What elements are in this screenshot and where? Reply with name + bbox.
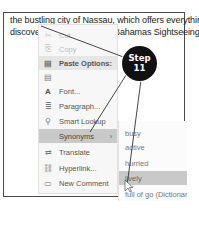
step-callout-badge: Step 11	[122, 46, 157, 81]
menu-item-translate[interactable]: ⇄ Translate	[39, 145, 117, 159]
synonym-hurried[interactable]: hurried	[119, 156, 187, 170]
menu-item-synonyms[interactable]: Synonyms ›	[39, 129, 117, 143]
menu-item-paste-keep-text[interactable]: ▤	[39, 70, 117, 84]
search-icon: ⚲	[42, 117, 54, 126]
synonym-lively[interactable]: lively	[119, 171, 187, 185]
menu-item-copy[interactable]: ⎘ Copy	[39, 42, 117, 56]
document-text-line-2-right: Bahamas Sightseeing	[114, 27, 199, 37]
font-icon: A	[42, 87, 54, 96]
translate-icon: ⇄	[42, 148, 54, 157]
menu-item-new-comment[interactable]: ▭ New Comment	[39, 176, 117, 190]
hyperlink-icon: ⛓	[42, 164, 54, 173]
synonyms-submenu: busy active hurried lively full of go (D…	[118, 121, 187, 201]
synonym-busy[interactable]: busy	[119, 126, 187, 140]
synonym-active[interactable]: active	[119, 140, 187, 154]
menu-header-paste-options: ▤ Paste Options:	[39, 56, 117, 70]
chevron-right-icon: ›	[110, 133, 112, 140]
menu-item-hyperlink[interactable]: ⛓ Hyperlink...	[39, 161, 117, 175]
menu-item-smart-lookup[interactable]: ⚲ Smart Lookup	[39, 114, 117, 128]
paragraph-icon: ≣	[42, 102, 54, 111]
menu-item-paragraph[interactable]: ≣ Paragraph...	[39, 99, 117, 113]
context-menu: ✂ Cut ⎘ Copy ▤ Paste Options: ▤ A Font..…	[38, 24, 118, 194]
synonym-full-of-go[interactable]: full of go (Dictionary)	[119, 187, 187, 201]
menu-item-font[interactable]: A Font...	[39, 84, 117, 98]
step-number: 11	[134, 64, 146, 74]
comment-icon: ▭	[42, 179, 54, 188]
scissors-icon: ✂	[42, 31, 54, 40]
copy-icon: ⎘	[42, 44, 54, 54]
paste-keep-text-icon: ▤	[42, 73, 54, 82]
menu-item-cut[interactable]: ✂ Cut	[39, 28, 117, 42]
paste-icon: ▤	[42, 59, 54, 68]
